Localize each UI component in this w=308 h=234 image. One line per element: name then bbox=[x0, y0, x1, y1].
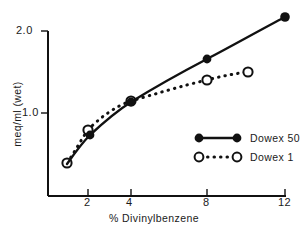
legend-item-dowex-50: Dowex 50 bbox=[192, 131, 300, 145]
dowex-50-point bbox=[280, 12, 290, 22]
dowex-50-point bbox=[203, 55, 212, 64]
chart-legend: Dowex 50 Dowex 1 bbox=[192, 131, 300, 164]
dowex-50-point bbox=[86, 131, 95, 140]
y-tick-label-2: 2.0 bbox=[16, 24, 33, 36]
legend-swatch-dotted-open bbox=[192, 150, 244, 164]
y-axis-title: meq/ml (wet) bbox=[11, 59, 23, 169]
legend-item-dowex-1: Dowex 1 bbox=[192, 150, 300, 164]
x-tick-label-8: 8 bbox=[203, 196, 210, 208]
x-tick-label-2: 2 bbox=[84, 196, 91, 208]
legend-label-dowex-50: Dowex 50 bbox=[250, 132, 300, 144]
dowex-50-point bbox=[127, 98, 136, 107]
dowex-1-point bbox=[243, 67, 252, 76]
dowex-1-point bbox=[202, 75, 211, 84]
x-axis-title: % Divinylbenzene bbox=[0, 212, 308, 224]
y-tick-label-1: 1.0 bbox=[22, 106, 39, 118]
plot-area bbox=[0, 0, 308, 234]
legend-swatch-solid-filled bbox=[192, 131, 244, 145]
x-tick-label-12: 12 bbox=[278, 196, 291, 208]
x-tick-label-4: 4 bbox=[126, 196, 133, 208]
axis-ticks bbox=[41, 31, 285, 196]
axis-lines bbox=[48, 31, 286, 196]
legend-label-dowex-1: Dowex 1 bbox=[250, 151, 294, 163]
chart-figure: 2.0 1.0 2 4 8 12 % Divinylbenzene meq/ml… bbox=[0, 0, 308, 234]
